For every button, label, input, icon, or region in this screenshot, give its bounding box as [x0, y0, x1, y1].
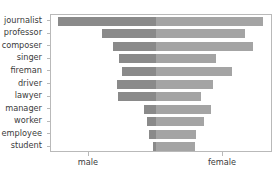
y-axis-tick-labels: journalistprofessorcomposersingerfireman…	[0, 14, 50, 152]
bar-segment-male	[149, 130, 156, 139]
bar-segment-female	[156, 80, 213, 89]
bar-segment-female	[156, 142, 195, 151]
bar-segment-male	[119, 54, 156, 63]
bar-row	[51, 130, 271, 139]
y-tick-label-singer: singer	[17, 53, 42, 62]
bar-row	[51, 80, 271, 89]
bar-segment-male	[122, 67, 156, 76]
bar-row	[51, 117, 271, 126]
bar-row	[51, 54, 271, 63]
bar-segment-female	[156, 130, 196, 139]
bar-segment-male	[147, 117, 156, 126]
bar-row	[51, 92, 271, 101]
bar-segment-male	[117, 80, 156, 89]
x-tick-mark-male	[88, 152, 89, 156]
y-tick-label-manager: manager	[5, 104, 42, 113]
y-tick-label-lawyer: lawyer	[15, 91, 42, 100]
plot-area	[50, 14, 272, 152]
y-tick-label-composer: composer	[2, 41, 42, 50]
chart-figure: journalistprofessorcomposersingerfireman…	[0, 0, 280, 180]
bar-segment-male	[113, 42, 156, 51]
x-tick-mark-female	[222, 152, 223, 156]
bar-segment-male	[118, 92, 156, 101]
bar-segment-female	[156, 92, 201, 101]
bar-segment-female	[156, 29, 245, 38]
y-tick-label-driver: driver	[18, 79, 42, 88]
bar-segment-male	[144, 105, 156, 114]
bar-segment-female	[156, 67, 232, 76]
x-tick-label-female: female	[208, 157, 236, 167]
bar-segment-female	[156, 105, 211, 114]
bar-segment-female	[156, 17, 263, 26]
y-tick-label-fireman: fireman	[10, 66, 42, 75]
y-tick-label-student: student	[11, 141, 42, 150]
bar-row	[51, 17, 271, 26]
bar-row	[51, 105, 271, 114]
bar-row	[51, 142, 271, 151]
y-tick-label-professor: professor	[4, 28, 42, 37]
y-tick-label-employee: employee	[2, 129, 42, 138]
bar-segment-female	[156, 54, 216, 63]
bar-segment-female	[156, 117, 204, 126]
y-tick-label-journalist: journalist	[4, 16, 42, 25]
bar-row	[51, 29, 271, 38]
y-tick-label-worker: worker	[14, 116, 42, 125]
bar-segment-female	[156, 42, 253, 51]
bar-segment-male	[102, 29, 156, 38]
bars-layer	[51, 15, 271, 151]
bar-row	[51, 67, 271, 76]
x-tick-label-male: male	[78, 157, 98, 167]
bar-segment-male	[58, 17, 156, 26]
bar-row	[51, 42, 271, 51]
